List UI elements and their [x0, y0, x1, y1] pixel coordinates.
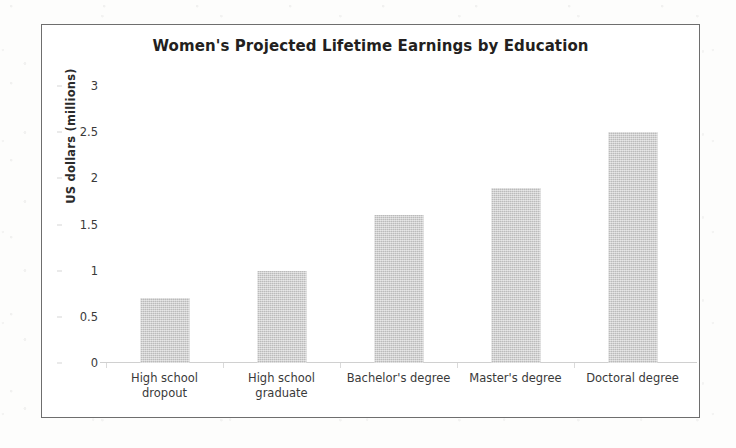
y-axis-tick-labels: 00.511.522.53 — [62, 86, 98, 363]
y-axis-tick-label: 2.5 — [80, 125, 98, 139]
chart-title: Women's Projected Lifetime Earnings by E… — [42, 37, 699, 55]
y-axis-tick-mark — [57, 270, 62, 271]
y-axis-tick-label: 1 — [91, 264, 98, 278]
bar-slot — [223, 86, 340, 363]
x-axis-tick-label: Bachelor's degree — [340, 371, 457, 400]
y-axis-tick-mark — [57, 178, 62, 179]
x-axis-tick-label: Master's degree — [457, 371, 574, 400]
plot-area: 00.511.522.53 — [106, 86, 691, 363]
x-axis-tick-mark — [340, 363, 341, 368]
bar[interactable] — [608, 132, 657, 363]
y-axis-tick-label: 3 — [91, 79, 98, 93]
y-axis-tick-label: 1.5 — [80, 218, 98, 232]
y-axis-tick-label: 0.5 — [80, 310, 98, 324]
x-axis-tick-label: Doctoral degree — [574, 371, 691, 400]
x-axis-tick-label: High school graduate — [223, 371, 340, 400]
y-axis-tick-mark — [57, 132, 62, 133]
x-axis-tick-label: High school dropout — [106, 371, 223, 400]
x-axis-tick-mark — [223, 363, 224, 368]
bar[interactable] — [374, 215, 423, 363]
bar-series — [106, 86, 691, 363]
bar-slot — [106, 86, 223, 363]
bar[interactable] — [140, 298, 189, 363]
bar-slot — [574, 86, 691, 363]
x-axis-tick-mark — [106, 363, 107, 368]
y-axis-tick-mark — [57, 363, 62, 364]
y-axis-tick-label: 2 — [91, 171, 98, 185]
chart-figure-frame: Women's Projected Lifetime Earnings by E… — [41, 24, 700, 418]
x-axis-tick-mark — [574, 363, 575, 368]
y-axis-tick-label: 0 — [91, 356, 98, 370]
x-axis-tick-labels: High school dropoutHigh school graduateB… — [106, 371, 691, 400]
bar[interactable] — [491, 188, 540, 363]
y-axis-tick-mark — [57, 86, 62, 87]
y-axis-tick-mark — [57, 224, 62, 225]
bar[interactable] — [257, 271, 306, 363]
y-axis-tick-mark — [57, 316, 62, 317]
bar-slot — [457, 86, 574, 363]
x-axis-tick-mark — [457, 363, 458, 368]
bar-slot — [340, 86, 457, 363]
